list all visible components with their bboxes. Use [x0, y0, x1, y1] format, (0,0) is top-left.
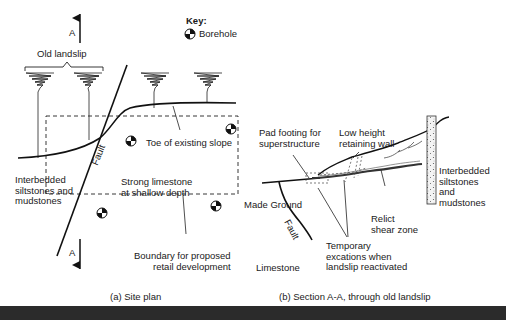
- section-marker-label-bottom: A: [69, 248, 75, 259]
- key-borehole-label: Borehole: [199, 29, 237, 40]
- landslip-symbol: [141, 73, 169, 88]
- pad-footing-label: Pad footing for superstructure: [259, 128, 321, 149]
- toe-of-slope-label: Toe of existing slope: [146, 138, 232, 149]
- key-borehole-icon: [185, 29, 195, 39]
- landslip-symbol: [194, 73, 222, 88]
- site-plan-caption: (a) Site plan: [110, 292, 161, 303]
- section-marker-label: A: [69, 28, 75, 39]
- ground-surface: [262, 178, 320, 183]
- borehole-icon: [126, 136, 136, 146]
- boundary-label: Boundary for proposed retail development: [134, 251, 231, 272]
- toe-of-slope-line: [18, 103, 236, 158]
- landslip-brace: [25, 62, 103, 71]
- made-ground-label: Made Ground: [244, 200, 302, 211]
- old-landslip-label: Old landslip: [37, 49, 87, 60]
- relict-shear-label: Relict shear zone: [371, 214, 418, 235]
- section-caption: (b) Section A-A, through old landslip: [279, 292, 431, 303]
- key-title: Key:: [186, 16, 207, 27]
- borehole-icon: [226, 124, 236, 134]
- temporary-excavations-label: Temporary excations when landslip reacti…: [326, 241, 407, 273]
- limestone-section-label: Limestone: [256, 263, 300, 274]
- limestone-label: Strong limestone at shallow depth: [121, 177, 192, 198]
- landslip-symbol: [74, 73, 102, 88]
- retaining-wall-label: Low height retaining wall: [339, 128, 394, 149]
- left-geology-label: Interbedded siltstones and mudstones: [15, 175, 73, 207]
- relict-shear-zone: [312, 164, 422, 178]
- borehole-icon: [211, 201, 221, 211]
- borehole-icon: [97, 208, 107, 218]
- bottom-bar: [0, 306, 506, 320]
- right-geology-label: Interbedded siltstones and mudstones: [439, 166, 490, 208]
- landslip-symbol: [26, 73, 54, 88]
- siltstone-column: [427, 116, 436, 204]
